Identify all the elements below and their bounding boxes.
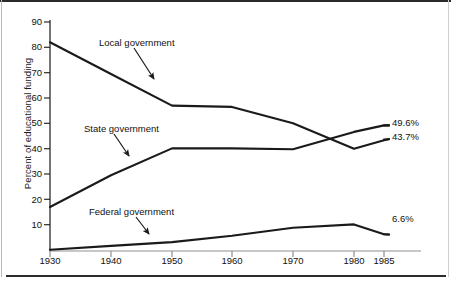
leader-arrow-local-government [134,48,154,79]
x-tick-marks [50,251,384,257]
series-line-federal-government [50,224,389,249]
end-label-connectors [384,125,389,234]
axis-lines [50,20,421,251]
chart-figure: Percent of educational funding 90 80 70 … [0,0,451,290]
y-tick-marks [44,22,50,225]
series-line-local-government [50,42,389,148]
leader-arrow-federal-government [136,217,149,234]
series-line-state-government [50,125,389,207]
leader-arrow-state-government [114,134,129,156]
chart-plot-svg [0,0,451,290]
